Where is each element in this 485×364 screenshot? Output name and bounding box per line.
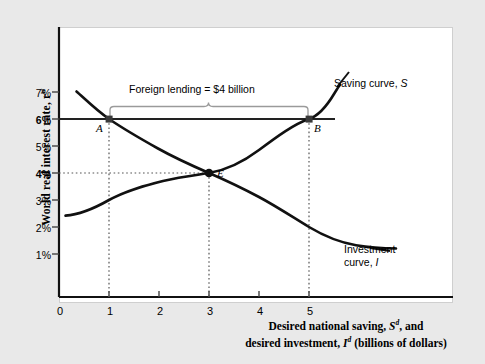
saving-curve-label: Saving curve, S xyxy=(334,77,408,90)
saving-path-hidden2 xyxy=(66,156,210,215)
saving-curve-helper4 xyxy=(66,119,210,215)
saving-curve-helper2 xyxy=(65,145,209,215)
point-e-label: E xyxy=(217,167,224,179)
point-b-marker xyxy=(306,116,313,123)
economics-chart-figure: World real interest rate, rw 7% 6% 5% 4%… xyxy=(0,0,485,364)
point-b-label: B xyxy=(314,122,321,134)
point-a-marker xyxy=(106,116,113,123)
saving-curve xyxy=(66,85,341,216)
saving-pre3 xyxy=(66,148,210,216)
point-e-marker xyxy=(205,169,214,178)
foreign-lending-bracket xyxy=(110,103,308,118)
investment-curve-label: Investmentcurve, I xyxy=(344,243,395,269)
chart-svg xyxy=(0,0,485,364)
point-a-label: A xyxy=(96,122,103,134)
investment-curve-label-line1: Investment xyxy=(344,243,395,255)
investment-curve xyxy=(77,92,397,249)
saving-pre2 xyxy=(66,168,210,216)
saving-curve-helper3 xyxy=(65,156,209,216)
saving-curve-helper xyxy=(65,157,209,215)
saving-discard2 xyxy=(65,86,339,215)
saving-discard xyxy=(65,146,209,215)
investment-curve-label-var: I xyxy=(376,256,379,268)
saving-curve-label-text: Saving curve, xyxy=(334,77,401,89)
saving-path-hidden xyxy=(66,158,210,216)
saving-curve-label-var: S xyxy=(401,77,408,89)
foreign-lending-label: Foreign lending = $4 billion xyxy=(129,83,255,95)
investment-curve-label-line2: curve, xyxy=(344,256,376,268)
